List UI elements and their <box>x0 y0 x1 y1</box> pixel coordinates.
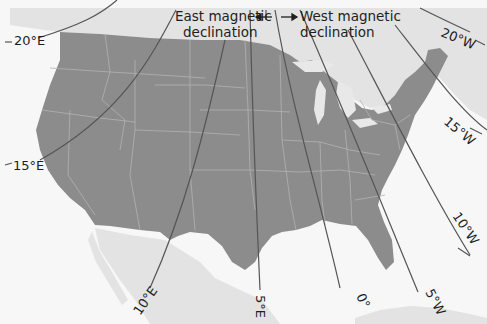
label-20E: 20°E <box>14 33 45 48</box>
west-legend-line2: declination <box>300 24 375 40</box>
declination-map: East magnetic declination West magnetic … <box>0 0 487 324</box>
east-legend-line2: declination <box>183 24 258 40</box>
label-15E: 15°E <box>13 158 44 173</box>
label-5E: 5°E <box>253 295 268 318</box>
west-legend-line1: West magnetic <box>300 8 401 24</box>
